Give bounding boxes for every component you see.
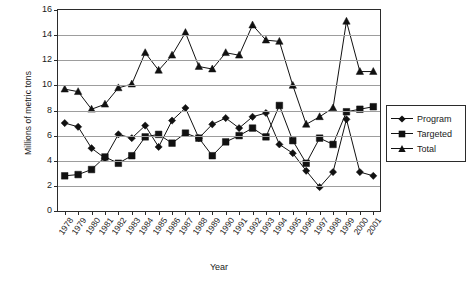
data-point <box>209 152 216 159</box>
legend-label: Program <box>414 114 452 124</box>
legend-item-program[interactable]: Program <box>390 111 461 126</box>
y-tick-label: 10 <box>42 80 52 89</box>
y-tick-mark <box>54 111 58 112</box>
x-axis-tick-labels: 1978197919801981198219831984198519861987… <box>57 212 381 256</box>
gridline <box>58 136 380 137</box>
data-point <box>222 49 229 56</box>
gridline <box>58 186 380 187</box>
series-line <box>65 21 374 124</box>
data-point <box>222 139 229 146</box>
data-point <box>222 114 229 121</box>
chart-legend: ProgramTargetedTotal <box>386 105 466 162</box>
gridline <box>58 35 380 36</box>
data-point <box>61 173 68 180</box>
data-point <box>155 131 162 138</box>
gridline <box>58 60 380 61</box>
y-tick-label: 8 <box>47 105 52 114</box>
data-point <box>343 17 350 24</box>
line-chart: Millions of metric tons 0246810121416 19… <box>0 0 471 286</box>
y-tick-mark <box>54 60 58 61</box>
data-point <box>249 125 256 132</box>
data-point <box>276 141 283 148</box>
data-point <box>370 68 377 75</box>
data-point <box>356 168 363 175</box>
y-tick-mark <box>54 186 58 187</box>
data-point <box>168 51 175 58</box>
x-axis-title: Year <box>57 262 381 272</box>
data-point <box>115 131 122 138</box>
y-tick-label: 0 <box>47 206 52 215</box>
data-point <box>155 143 162 150</box>
data-point <box>263 134 270 141</box>
y-tick-label: 12 <box>42 55 52 64</box>
gridline <box>58 111 380 112</box>
data-point <box>276 102 283 109</box>
data-point <box>102 154 109 161</box>
data-point <box>195 63 202 70</box>
data-point <box>249 21 256 28</box>
y-tick-label: 6 <box>47 130 52 139</box>
data-point <box>128 152 135 159</box>
y-tick-mark <box>54 136 58 137</box>
legend-item-total[interactable]: Total <box>390 141 461 156</box>
series-line <box>65 105 374 175</box>
series-line <box>65 108 374 187</box>
y-tick-mark <box>54 161 58 162</box>
triangle-icon <box>390 143 414 155</box>
y-tick-label: 16 <box>42 5 52 14</box>
y-tick-mark <box>54 10 58 11</box>
data-point <box>343 108 350 115</box>
y-tick-label: 14 <box>42 30 52 39</box>
y-axis-tick-labels: 0246810121416 <box>26 8 52 212</box>
data-point <box>356 68 363 75</box>
gridline <box>58 161 380 162</box>
gridline <box>58 85 380 86</box>
data-point <box>303 120 310 127</box>
square-icon <box>390 128 414 140</box>
data-point <box>370 103 377 110</box>
data-point <box>75 123 82 130</box>
series-targeted <box>61 102 376 179</box>
data-point <box>61 119 68 126</box>
data-point <box>316 113 323 120</box>
y-tick-label: 2 <box>47 180 52 189</box>
y-tick-label: 4 <box>47 155 52 164</box>
data-point <box>75 171 82 178</box>
data-point <box>169 140 176 147</box>
data-point <box>357 106 364 113</box>
data-point <box>88 166 95 173</box>
legend-item-targeted[interactable]: Targeted <box>390 126 461 141</box>
y-tick-mark <box>54 35 58 36</box>
legend-label: Total <box>414 144 436 154</box>
diamond-icon <box>390 113 414 125</box>
data-point <box>330 141 337 148</box>
data-point <box>142 134 149 141</box>
data-point <box>289 137 296 144</box>
legend-label: Targeted <box>414 129 452 139</box>
y-tick-mark <box>54 85 58 86</box>
data-point <box>88 145 95 152</box>
data-point <box>370 172 377 179</box>
plot-area <box>57 9 381 212</box>
data-point <box>142 49 149 56</box>
